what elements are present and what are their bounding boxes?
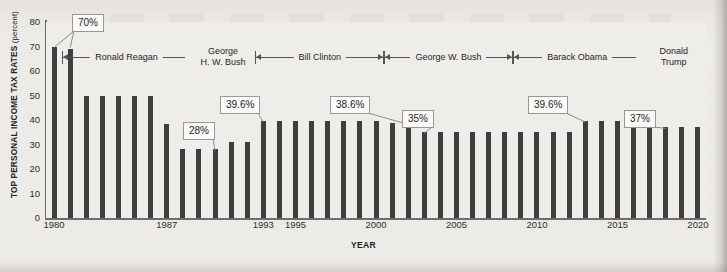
x-axis-tick-2000: 2000 xyxy=(365,220,386,230)
era-label: Ronald Reagan xyxy=(90,52,163,63)
bar-2007 xyxy=(486,132,491,218)
era-bracket-barack-obama: Barack Obama xyxy=(513,40,642,74)
bar-1987 xyxy=(164,124,169,218)
bar-2009 xyxy=(518,132,523,218)
bar-1997 xyxy=(325,121,330,218)
callout-35: 35% xyxy=(402,110,434,128)
tax-rate-chart-figure: TOP PERSONAL INCOME TAX RATES (percent) … xyxy=(0,0,727,272)
y-axis-tick-labels: 01020304050607080 xyxy=(0,0,40,272)
bar-1989 xyxy=(196,149,201,218)
bar-2004 xyxy=(438,132,443,218)
bar-1988 xyxy=(180,149,185,218)
bar-1990 xyxy=(213,149,218,218)
bar-2013 xyxy=(583,121,588,218)
bar-1982 xyxy=(84,96,89,219)
callout-28: 28% xyxy=(183,122,215,140)
era-label: Barack Obama xyxy=(542,52,612,63)
y-axis-tick-80: 80 xyxy=(18,17,40,27)
era-arrow-left-icon xyxy=(385,54,390,60)
era-bracket-ronald-reagan: Ronald Reagan xyxy=(62,40,191,74)
era-bracket-donald-trump: DonaldTrump xyxy=(642,40,706,74)
page-edge-shadow-bottom xyxy=(0,262,727,272)
y-axis-tick-50: 50 xyxy=(18,91,40,101)
bar-2010 xyxy=(534,132,539,218)
bar-1985 xyxy=(132,96,137,219)
x-axis-tick-1995: 1995 xyxy=(285,220,306,230)
era-label: George W. Bush xyxy=(410,52,486,63)
bar-1993 xyxy=(261,121,266,218)
bar-2000 xyxy=(374,121,379,218)
bar-2006 xyxy=(470,132,475,218)
era-label: DonaldTrump xyxy=(636,46,712,68)
bar-1994 xyxy=(277,121,282,218)
bar-2015 xyxy=(615,121,620,218)
bar-1999 xyxy=(357,121,362,218)
callout-386: 38.6% xyxy=(330,96,370,114)
x-axis-tick-1987: 1987 xyxy=(156,220,177,230)
bar-1983 xyxy=(100,96,105,219)
bar-1992 xyxy=(245,142,250,218)
bar-1995 xyxy=(293,121,298,218)
presidential-era-brackets: Ronald ReaganGeorgeH. W. BushBill Clinto… xyxy=(46,40,706,74)
y-axis-tick-20: 20 xyxy=(18,164,40,174)
page-edge-shadow-right xyxy=(713,0,727,272)
y-axis-tick-10: 10 xyxy=(18,189,40,199)
era-arrow-left-icon xyxy=(63,54,68,60)
bar-2012 xyxy=(567,132,572,218)
bar-2001 xyxy=(390,123,395,218)
y-axis-tick-70: 70 xyxy=(18,42,40,52)
bar-2019 xyxy=(679,127,684,218)
bar-2011 xyxy=(551,132,556,218)
bar-1981 xyxy=(68,49,73,218)
y-axis-tick-40: 40 xyxy=(18,115,40,125)
x-axis-title: YEAR xyxy=(0,240,727,250)
bar-2020 xyxy=(695,127,700,218)
bar-2005 xyxy=(454,132,459,218)
era-arrow-right-icon xyxy=(378,54,383,60)
y-axis-tick-60: 60 xyxy=(18,66,40,76)
bar-2016 xyxy=(631,121,636,218)
x-axis-tick-2015: 2015 xyxy=(607,220,628,230)
era-bracket-bill-clinton: Bill Clinton xyxy=(255,40,384,74)
bar-1996 xyxy=(309,121,314,218)
callout-396: 39.6% xyxy=(220,96,260,114)
callout-37: 37% xyxy=(624,110,656,128)
bar-2018 xyxy=(663,127,668,218)
bar-2014 xyxy=(599,121,604,218)
bar-1986 xyxy=(148,96,153,219)
x-axis-tick-1993: 1993 xyxy=(253,220,274,230)
era-arrow-right-icon xyxy=(507,54,512,60)
era-label: Bill Clinton xyxy=(293,52,346,63)
y-axis-tick-30: 30 xyxy=(18,140,40,150)
x-axis-tick-2020: 2020 xyxy=(687,220,708,230)
era-arrow-left-icon xyxy=(256,54,261,60)
era-label: GeorgeH. W. Bush xyxy=(185,46,261,68)
bar-1984 xyxy=(116,96,121,219)
bar-1991 xyxy=(229,142,234,218)
x-axis-tick-1980: 1980 xyxy=(43,220,64,230)
x-axis-tick-2010: 2010 xyxy=(526,220,547,230)
callout-396: 39.6% xyxy=(528,96,568,114)
era-bracket-george-w-bush: George W. Bush xyxy=(384,40,513,74)
bar-2008 xyxy=(502,132,507,218)
bar-2002 xyxy=(406,123,411,218)
x-axis-tick-2005: 2005 xyxy=(446,220,467,230)
callout-70: 70% xyxy=(72,14,104,32)
era-bracket-george-h-w-bush: GeorgeH. W. Bush xyxy=(191,40,255,74)
bar-1998 xyxy=(341,121,346,218)
bar-2017 xyxy=(647,121,652,218)
era-arrow-left-icon xyxy=(514,54,519,60)
bar-2003 xyxy=(422,132,427,218)
y-axis-tick-0: 0 xyxy=(18,213,40,223)
